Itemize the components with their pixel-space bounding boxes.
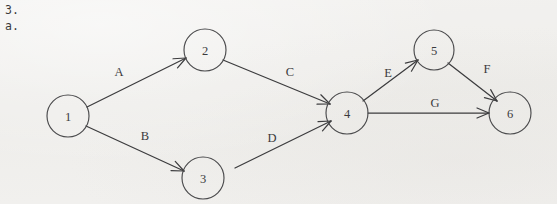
node-5: 5 <box>414 30 454 70</box>
edge-A <box>87 58 186 107</box>
node-label-2: 2 <box>202 44 208 58</box>
edge-label-D: D <box>267 131 276 145</box>
edge-label-C: C <box>286 65 294 79</box>
node-2: 2 <box>184 29 226 71</box>
node-6: 6 <box>489 92 531 134</box>
node-label-4: 4 <box>344 107 351 121</box>
node-3: 3 <box>182 157 224 199</box>
activity-network-diagram: 123456 ABCDEFG <box>0 0 557 204</box>
edge-label-B: B <box>141 129 149 143</box>
node-label-3: 3 <box>200 172 206 186</box>
edge-D <box>235 121 331 168</box>
node-label-5: 5 <box>431 44 437 58</box>
edge-label-E: E <box>384 66 392 80</box>
node-label-6: 6 <box>507 107 513 121</box>
node-1: 1 <box>47 95 89 137</box>
edge-labels-layer: ABCDEFG <box>114 62 490 145</box>
edge-G <box>368 108 489 118</box>
edge-label-A: A <box>114 65 123 79</box>
edge-label-G: G <box>430 96 439 110</box>
node-label-1: 1 <box>65 110 71 124</box>
edge-B <box>86 126 184 171</box>
edge-C <box>223 60 330 104</box>
node-4: 4 <box>326 92 368 134</box>
edge-label-F: F <box>484 62 491 76</box>
nodes-layer: 123456 <box>47 29 531 199</box>
